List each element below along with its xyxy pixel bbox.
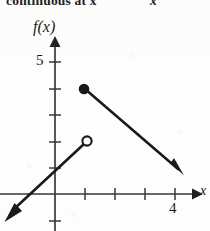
figure-page: continuous at x x <box>0 0 210 231</box>
graph-canvas <box>0 0 210 231</box>
y-axis-arrowhead <box>50 36 61 47</box>
x-axis-label: x <box>200 183 206 199</box>
filled-dot-endpoint <box>79 84 88 93</box>
right-branch-arrowhead <box>171 158 185 176</box>
right-branch-line <box>85 89 178 169</box>
y-axis-tick-label-5: 5 <box>36 52 44 69</box>
left-branch-arrowhead <box>5 203 23 222</box>
open-circle-endpoint <box>82 136 91 145</box>
function-graph: f(x) x 5 4 <box>0 0 210 231</box>
y-axis-label: f(x) <box>33 18 55 36</box>
x-axis-tick-label-4: 4 <box>169 200 177 217</box>
left-branch-line <box>13 144 84 210</box>
